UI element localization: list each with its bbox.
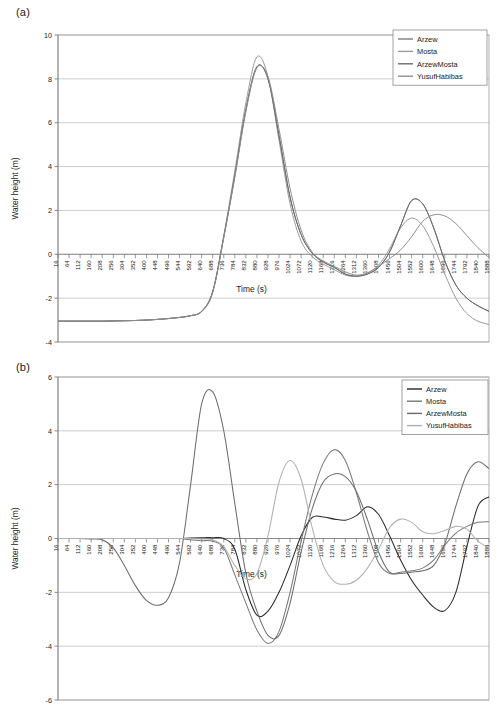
x-tick-label: 304 <box>118 260 125 271</box>
x-tick-label: 64 <box>63 260 70 267</box>
figure-container: (a) 1086420-2-41664112160208256304352400… <box>0 0 504 715</box>
legend-label-yusufhabibas: YusufHabibas <box>426 421 472 430</box>
x-tick-label: 1648 <box>428 544 435 558</box>
x-axis-title: Time (s) <box>236 284 267 294</box>
x-tick-label: 1264 <box>339 544 346 558</box>
chart-a-svg: 1086420-2-416641121602082563043524004484… <box>0 0 504 355</box>
x-tick-label: 1840 <box>472 544 479 558</box>
x-tick-label: 1552 <box>406 260 413 274</box>
x-tick-label: 592 <box>185 544 192 555</box>
y-tick-label: -2 <box>46 294 52 303</box>
x-tick-label: 1840 <box>472 260 479 274</box>
x-tick-label: 1120 <box>306 544 313 558</box>
y-tick-label: 4 <box>48 427 52 436</box>
x-tick-label: 16 <box>52 544 59 551</box>
y-tick-label: 10 <box>44 31 52 40</box>
x-tick-label: 1024 <box>284 260 291 274</box>
x-tick-label: 112 <box>74 544 81 554</box>
x-tick-label: 928 <box>262 260 269 271</box>
x-tick-label: 64 <box>63 544 70 551</box>
x-tick-label: 1600 <box>417 260 424 274</box>
x-tick-label: 976 <box>273 260 280 271</box>
y-tick-label: -6 <box>46 696 52 705</box>
x-tick-label: 1552 <box>406 544 413 558</box>
x-tick-label: 496 <box>163 544 170 555</box>
legend-label-yusufhabibas: YusufHabibas <box>417 72 463 81</box>
x-tick-label: 1456 <box>384 544 391 558</box>
y-tick-label: 2 <box>48 206 52 215</box>
x-tick-label: 352 <box>129 544 136 555</box>
x-tick-label: 1888 <box>483 260 490 274</box>
chart-panel-a: (a) 1086420-2-41664112160208256304352400… <box>0 0 504 355</box>
chart-panel-b: (b) 6420-2-4-616641121602082563043524004… <box>0 355 504 715</box>
y-tick-label: -4 <box>46 338 52 347</box>
y-tick-label: -2 <box>46 588 52 597</box>
x-tick-label: 1216 <box>328 544 335 558</box>
chart-b-svg: 6420-2-4-6166411216020825630435240044849… <box>0 355 504 715</box>
y-tick-label: 4 <box>48 162 52 171</box>
x-tick-label: 784 <box>229 260 236 271</box>
x-tick-label: 1360 <box>361 260 368 274</box>
x-tick-label: 352 <box>129 260 136 271</box>
legend-label-arzewmosta: ArzewMosta <box>417 60 459 69</box>
legend-label-arzewmosta: ArzewMosta <box>426 409 468 418</box>
x-tick-label: 1360 <box>361 544 368 558</box>
x-tick-label: 880 <box>251 260 258 271</box>
x-tick-label: 448 <box>151 544 158 555</box>
x-tick-label: 688 <box>207 260 214 271</box>
x-tick-label: 400 <box>140 544 147 555</box>
y-tick-label: 6 <box>48 373 52 382</box>
y-axis-title: Water height (m) <box>10 157 20 219</box>
x-tick-label: 640 <box>196 544 203 555</box>
y-tick-label: 8 <box>48 75 52 84</box>
legend-label-mosta: Mosta <box>426 397 447 406</box>
legend-label-arzew: Arzew <box>426 385 447 394</box>
x-tick-label: 1072 <box>295 260 302 274</box>
y-tick-label: 6 <box>48 118 52 127</box>
x-tick-label: 160 <box>85 544 92 555</box>
x-tick-label: 1600 <box>417 544 424 558</box>
x-tick-label: 1744 <box>450 544 457 558</box>
x-tick-label: 1648 <box>428 260 435 274</box>
legend-label-arzew: Arzew <box>417 35 438 44</box>
x-tick-label: 688 <box>207 544 214 555</box>
x-tick-label: 976 <box>273 544 280 555</box>
y-tick-label: -4 <box>46 642 52 651</box>
x-tick-label: 544 <box>174 260 181 271</box>
x-tick-label: 1312 <box>350 260 357 274</box>
legend-label-mosta: Mosta <box>417 47 438 56</box>
x-tick-label: 1312 <box>350 544 357 558</box>
y-axis-title: Water height (m) <box>10 507 20 569</box>
y-tick-label: 2 <box>48 480 52 489</box>
x-tick-label: 16 <box>52 260 59 267</box>
x-tick-label: 1792 <box>461 260 468 274</box>
x-tick-label: 400 <box>140 260 147 271</box>
x-tick-label: 640 <box>196 260 203 271</box>
x-tick-label: 112 <box>74 260 81 270</box>
x-tick-label: 832 <box>240 260 247 271</box>
x-tick-label: 544 <box>174 544 181 555</box>
x-tick-label: 208 <box>96 544 103 555</box>
x-tick-label: 208 <box>96 260 103 271</box>
x-tick-label: 1504 <box>395 260 402 274</box>
x-tick-label: 1120 <box>306 260 313 274</box>
x-tick-label: 880 <box>251 544 258 555</box>
x-tick-label: 1024 <box>284 544 291 558</box>
x-tick-label: 496 <box>163 260 170 271</box>
x-tick-label: 448 <box>151 260 158 271</box>
y-tick-label: 0 <box>48 250 52 259</box>
x-tick-label: 160 <box>85 260 92 271</box>
x-tick-label: 592 <box>185 260 192 271</box>
x-tick-label: 1744 <box>450 260 457 274</box>
x-tick-label: 304 <box>118 544 125 555</box>
y-tick-label: 0 <box>48 534 52 543</box>
x-tick-label: 256 <box>107 260 114 271</box>
